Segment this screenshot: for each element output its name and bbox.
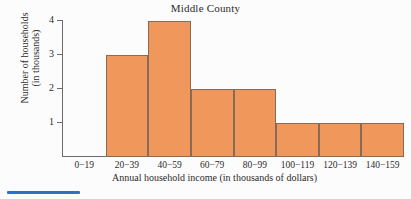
x-axis-tick-labels: 0−1920−3940−5960−7980−99100−119120−13914… — [63, 159, 404, 172]
bar-100−119 — [276, 123, 319, 157]
bar-140−159 — [361, 123, 404, 157]
x-tick-label-120−139: 120−139 — [319, 159, 362, 171]
chart-title: Middle County — [0, 2, 411, 14]
bar-60−79 — [191, 89, 234, 157]
x-axis-label: Annual household income (in thousands of… — [0, 172, 411, 183]
histogram-figure: Middle County Number of households (in t… — [0, 0, 411, 199]
bar-120−139 — [319, 123, 362, 157]
x-tick-label-40−59: 40−59 — [148, 159, 191, 171]
x-tick-label-80−99: 80−99 — [234, 159, 277, 171]
x-tick-label-140−159: 140−159 — [361, 159, 404, 171]
x-tick-label-60−79: 60−79 — [191, 159, 234, 171]
y-tick-label-1: 1 — [38, 117, 54, 127]
y-tick-label-2: 2 — [38, 83, 54, 93]
blue-marker-bar — [7, 191, 80, 194]
bar-80−99 — [234, 89, 277, 157]
bars-group — [63, 20, 404, 157]
y-axis-label-line1: Number of households — [19, 0, 30, 120]
y-tick-label-4: 4 — [38, 15, 54, 25]
x-tick-label-0−19: 0−19 — [63, 159, 106, 171]
bar-20−39 — [106, 55, 149, 157]
x-tick-label-100−119: 100−119 — [276, 159, 319, 171]
bar-40−59 — [148, 21, 191, 157]
x-tick-label-20−39: 20−39 — [106, 159, 149, 171]
y-tick-label-3: 3 — [38, 49, 54, 59]
